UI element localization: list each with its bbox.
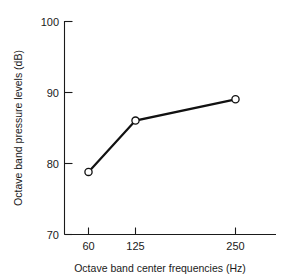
data-point-marker[interactable] [85, 168, 92, 175]
x-tick-label-60: 60 [82, 240, 94, 252]
y-tick-label-90: 90 [47, 87, 59, 99]
data-point-marker[interactable] [132, 117, 139, 124]
chart-figure: 100 90 80 70 60 125 250 Octave band pres… [0, 0, 287, 280]
y-axis-title: Octave band pressure levels (dB) [12, 50, 24, 206]
y-tick-label-100: 100 [41, 16, 59, 28]
x-tick-label-125: 125 [126, 240, 144, 252]
y-tick-label-70: 70 [47, 229, 59, 241]
data-series-line [89, 99, 236, 172]
x-tick-label-250: 250 [226, 240, 244, 252]
data-point-marker[interactable] [232, 96, 239, 103]
chart-plot-area: 100 90 80 70 60 125 250 Octave band pres… [0, 0, 287, 280]
y-tick-label-80: 80 [47, 158, 59, 170]
x-axis-title: Octave band center frequencies (Hz) [74, 262, 246, 274]
